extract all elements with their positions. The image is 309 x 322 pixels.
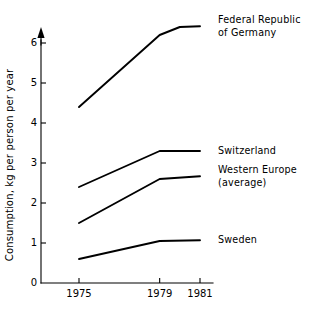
x-axis-ticks: 197519791981 xyxy=(66,278,212,299)
series-label: of Germany xyxy=(218,27,277,38)
series-line xyxy=(79,176,200,223)
y-axis-ticks: 0123456 xyxy=(31,37,46,288)
series-label: Western Europe xyxy=(218,164,297,175)
y-tick-label: 4 xyxy=(31,117,37,128)
y-tick-label: 2 xyxy=(31,197,37,208)
series-line xyxy=(79,240,200,259)
chart-canvas: Consumption, kg per person per year 0123… xyxy=(0,0,309,322)
y-tick-label: 0 xyxy=(31,277,37,288)
x-tick-label: 1981 xyxy=(187,288,212,299)
y-tick-label: 5 xyxy=(31,77,37,88)
y-tick-label: 6 xyxy=(31,37,37,48)
series-label: Sweden xyxy=(218,234,257,245)
x-tick-label: 1979 xyxy=(147,288,172,299)
series-label: Federal Republic xyxy=(218,14,301,25)
series-line xyxy=(79,151,200,187)
series-lines xyxy=(79,26,200,259)
line-chart: Consumption, kg per person per year 0123… xyxy=(0,0,309,322)
series-label: Switzerland xyxy=(218,145,276,156)
y-tick-label: 3 xyxy=(31,157,37,168)
y-tick-label: 1 xyxy=(31,237,37,248)
series-label: (average) xyxy=(218,177,267,188)
y-axis-title: Consumption, kg per person per year xyxy=(4,68,15,261)
series-labels: Federal Republicof GermanySwitzerlandWes… xyxy=(218,14,301,246)
series-line xyxy=(79,26,200,107)
x-tick-label: 1975 xyxy=(66,288,91,299)
